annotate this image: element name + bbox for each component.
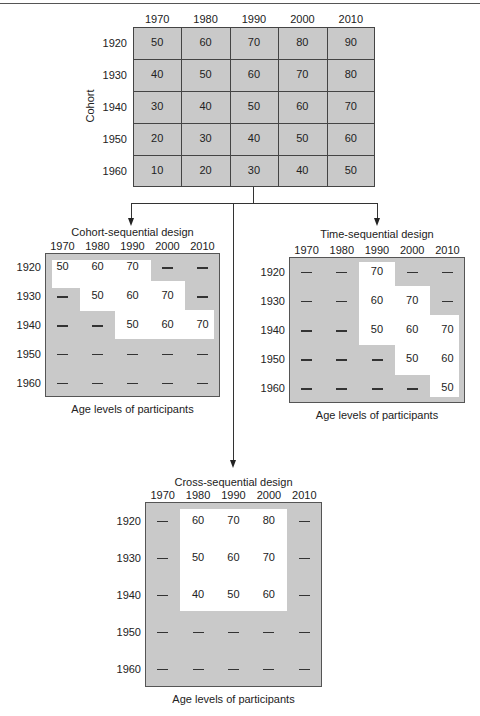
dash-cell xyxy=(263,669,274,671)
dash-cell xyxy=(197,383,208,385)
dash-cell xyxy=(301,388,312,390)
dash-cell xyxy=(407,388,418,390)
connector-right xyxy=(377,203,378,219)
matrix-cell: 60 xyxy=(327,133,375,144)
column-header: 2000 xyxy=(280,13,324,25)
dash-cell xyxy=(92,354,103,356)
row-header: 1930 xyxy=(101,552,141,564)
dash-cell xyxy=(372,388,383,390)
value-cell: 60 xyxy=(251,589,286,600)
matrix-cell: 70 xyxy=(327,101,375,112)
value-cell: 80 xyxy=(251,515,286,526)
connector-stem xyxy=(253,187,254,203)
panel-footer: Age levels of participants xyxy=(125,693,342,705)
matrix-cell: 30 xyxy=(181,133,229,144)
dash-cell xyxy=(336,272,347,274)
dash-cell xyxy=(228,632,239,634)
row-header: 1950 xyxy=(101,626,141,638)
value-cell: 70 xyxy=(185,319,220,330)
dash-cell xyxy=(299,521,310,523)
connector-bar xyxy=(131,203,378,204)
value-cell: 70 xyxy=(216,515,251,526)
row-header: 1960 xyxy=(87,165,127,177)
matrix-cell: 50 xyxy=(327,165,375,176)
matrix-cell: 50 xyxy=(278,133,326,144)
value-cell: 40 xyxy=(180,589,215,600)
dash-cell xyxy=(57,325,68,327)
row-header: 1960 xyxy=(1,377,41,389)
grid-line xyxy=(133,123,375,124)
value-cell: 60 xyxy=(430,353,465,364)
dash-cell xyxy=(157,632,168,634)
matrix-cell: 50 xyxy=(230,101,278,112)
matrix-cell: 80 xyxy=(327,69,375,80)
dash-cell xyxy=(299,632,310,634)
value-cell: 50 xyxy=(430,382,465,393)
row-header: 1940 xyxy=(245,324,285,336)
value-cell: 50 xyxy=(216,589,251,600)
matrix-cell: 20 xyxy=(133,133,181,144)
row-header: 1960 xyxy=(245,382,285,394)
dash-cell xyxy=(228,669,239,671)
connector-left xyxy=(131,203,132,219)
value-cell: 50 xyxy=(45,261,80,272)
dash-cell xyxy=(193,669,204,671)
row-header: 1950 xyxy=(87,133,127,145)
value-cell: 50 xyxy=(115,319,150,330)
row-header: 1960 xyxy=(101,663,141,675)
grid-line xyxy=(133,91,375,92)
dash-cell xyxy=(193,632,204,634)
value-cell: 50 xyxy=(395,353,430,364)
dash-cell xyxy=(336,388,347,390)
matrix-cell: 50 xyxy=(133,37,181,48)
dash-cell xyxy=(92,325,103,327)
column-header: 2010 xyxy=(425,244,469,256)
row-header: 1930 xyxy=(245,295,285,307)
matrix-cell: 50 xyxy=(181,69,229,80)
dash-cell xyxy=(336,301,347,303)
dash-cell xyxy=(162,267,173,269)
value-cell: 50 xyxy=(359,324,394,335)
dash-cell xyxy=(157,669,168,671)
matrix-cell: 70 xyxy=(278,69,326,80)
column-header: 2010 xyxy=(329,13,373,25)
value-cell: 70 xyxy=(115,261,150,272)
dash-cell xyxy=(336,359,347,361)
row-header: 1930 xyxy=(1,290,41,302)
value-cell: 50 xyxy=(180,552,215,563)
value-cell: 60 xyxy=(115,290,150,301)
dash-cell xyxy=(301,301,312,303)
panel-title: Cross-sequential design xyxy=(125,476,342,488)
dash-cell xyxy=(197,296,208,298)
value-cell: 70 xyxy=(150,290,185,301)
row-header: 1920 xyxy=(1,261,41,273)
column-header: 1980 xyxy=(184,13,228,25)
row-header: 1930 xyxy=(87,69,127,81)
dash-cell xyxy=(57,354,68,356)
dash-cell xyxy=(372,359,383,361)
arrow-down-icon xyxy=(230,460,236,468)
dash-cell xyxy=(57,383,68,385)
dash-cell xyxy=(442,272,453,274)
dash-cell xyxy=(162,354,173,356)
panel-footer: Age levels of participants xyxy=(25,403,240,415)
dash-cell xyxy=(127,383,138,385)
dash-cell xyxy=(299,558,310,560)
dash-cell xyxy=(162,383,173,385)
grid-line xyxy=(133,155,375,156)
value-cell: 70 xyxy=(430,324,465,335)
grid-line xyxy=(133,59,375,60)
row-header: 1920 xyxy=(87,37,127,49)
dash-cell xyxy=(301,330,312,332)
matrix-cell: 30 xyxy=(133,101,181,112)
connector-middle xyxy=(233,203,234,461)
row-header: 1950 xyxy=(245,353,285,365)
dash-cell xyxy=(127,354,138,356)
matrix-cell: 90 xyxy=(327,37,375,48)
panel-title: Time-sequential design xyxy=(269,228,480,240)
value-cell: 70 xyxy=(251,552,286,563)
dash-cell xyxy=(157,558,168,560)
cohort-axis-label: Cohort xyxy=(84,86,96,126)
value-cell: 50 xyxy=(80,290,115,301)
value-cell: 60 xyxy=(150,319,185,330)
